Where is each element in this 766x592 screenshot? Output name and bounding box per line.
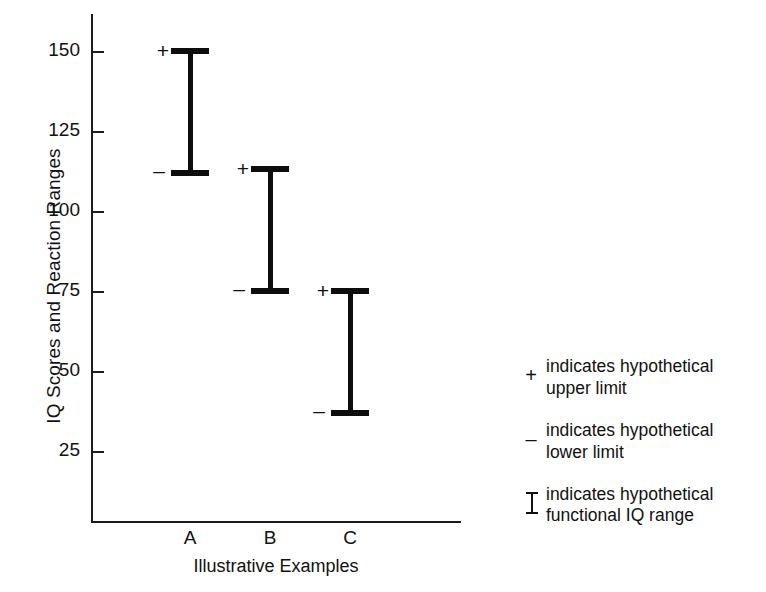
- range-bar-b-lower-cap: [251, 288, 289, 294]
- minus-icon-glyph: –: [520, 429, 542, 449]
- x-tick-label-c: C: [320, 527, 380, 549]
- y-tick-50: [93, 371, 104, 373]
- x-tick-label-b: B: [240, 527, 300, 549]
- y-tick-label-125: 125: [16, 119, 80, 141]
- legend-entry-lower-limit: – indicates hypothetical lower limit: [520, 420, 760, 464]
- plus-icon: +: [520, 356, 546, 396]
- y-tick-label-100: 100: [16, 199, 80, 221]
- y-tick-125: [93, 131, 104, 133]
- y-tick-label-75: 75: [16, 279, 80, 301]
- range-bar-c-stem: [348, 288, 353, 416]
- ibeam-bottom-cap: [526, 512, 538, 514]
- iq-range-chart: IQ Scores and Reaction Ranges 150 125 10…: [0, 0, 766, 592]
- upper-limit-marker-c: +: [312, 280, 334, 301]
- lower-limit-marker-b: –: [228, 278, 250, 299]
- legend-text-upper-limit: indicates hypothetical upper limit: [546, 356, 713, 400]
- range-bar-c: [331, 288, 369, 416]
- range-bar-c-lower-cap: [331, 410, 369, 416]
- y-tick-label-150: 150: [16, 39, 80, 61]
- legend-entry-upper-limit: + indicates hypothetical upper limit: [520, 356, 760, 400]
- range-bar-b-stem: [268, 166, 273, 294]
- range-bar-b: [251, 166, 289, 294]
- x-axis-title: Illustrative Examples: [91, 556, 461, 577]
- legend-text-functional-range: indicates hypothetical functional IQ ran…: [546, 484, 713, 528]
- range-bar-a: [171, 48, 209, 176]
- legend-line-1: indicates hypothetical: [546, 356, 713, 376]
- legend-line-1: indicates hypothetical: [546, 484, 713, 504]
- y-tick-label-25: 25: [16, 439, 80, 461]
- x-axis-line: [91, 521, 461, 523]
- y-tick-label-50: 50: [16, 359, 80, 381]
- y-axis-line: [91, 14, 93, 523]
- minus-icon: –: [520, 420, 546, 460]
- plus-icon-glyph: +: [520, 365, 542, 385]
- y-tick-100: [93, 211, 104, 213]
- ibeam-icon: [520, 484, 546, 524]
- legend-line-2: upper limit: [546, 378, 713, 400]
- legend-line-2: lower limit: [546, 442, 713, 464]
- legend-entry-functional-range: indicates hypothetical functional IQ ran…: [520, 484, 760, 528]
- lower-limit-marker-a: –: [148, 160, 170, 181]
- chart-legend: + indicates hypothetical upper limit – i…: [520, 356, 760, 547]
- legend-line-1: indicates hypothetical: [546, 420, 713, 440]
- y-tick-25: [93, 451, 104, 453]
- y-tick-150: [93, 51, 104, 53]
- range-bar-a-lower-cap: [171, 170, 209, 176]
- upper-limit-marker-a: +: [152, 40, 174, 61]
- legend-text-lower-limit: indicates hypothetical lower limit: [546, 420, 713, 464]
- ibeam-stem: [531, 492, 533, 514]
- x-tick-label-a: A: [160, 527, 220, 549]
- lower-limit-marker-c: –: [308, 400, 330, 421]
- ibeam-icon-shape: [526, 492, 538, 514]
- range-bar-a-stem: [188, 48, 193, 176]
- legend-line-2: functional IQ range: [546, 505, 713, 527]
- upper-limit-marker-b: +: [232, 158, 254, 179]
- y-tick-75: [93, 291, 104, 293]
